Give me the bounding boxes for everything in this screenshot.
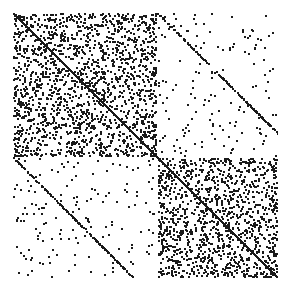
spy-plot-figure — [0, 0, 289, 293]
matrix-plot-area — [13, 13, 278, 278]
sparsity-pattern-canvas — [13, 13, 278, 278]
